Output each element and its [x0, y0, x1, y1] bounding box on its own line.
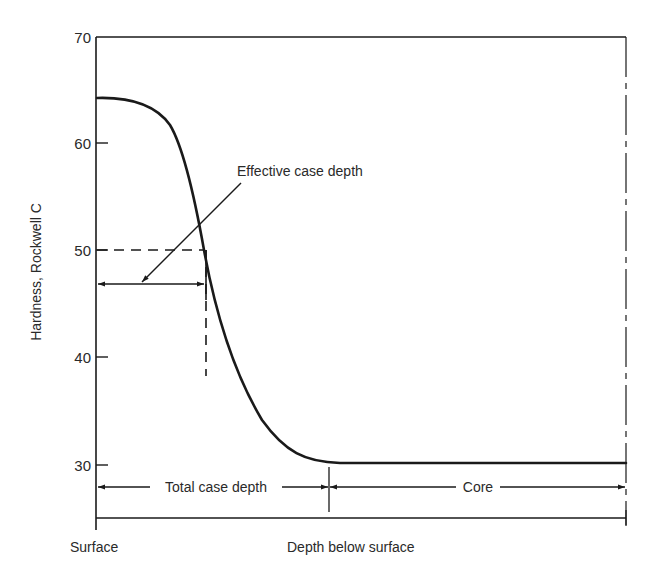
hardness-curve — [97, 98, 626, 463]
y-tick-label-30: 30 — [74, 457, 91, 474]
hardness-chart: 70 60 50 40 30 Hardness, Rockwell C Effe… — [0, 0, 661, 582]
y-axis-title: Hardness, Rockwell C — [28, 203, 44, 341]
y-tick-label-60: 60 — [74, 135, 91, 152]
effective-depth-leader — [142, 183, 241, 282]
y-tick-label-40: 40 — [74, 349, 91, 366]
surface-label: Surface — [70, 539, 118, 555]
y-ticks — [96, 143, 108, 465]
x-axis-title: Depth below surface — [287, 539, 415, 555]
core-label: Core — [463, 479, 494, 495]
y-tick-labels: 70 60 50 40 30 — [74, 29, 91, 474]
total-case-depth-label: Total case depth — [165, 479, 267, 495]
y-tick-label-70: 70 — [74, 29, 91, 46]
effective-case-depth-label: Effective case depth — [237, 163, 363, 179]
y-tick-label-50: 50 — [74, 242, 91, 259]
